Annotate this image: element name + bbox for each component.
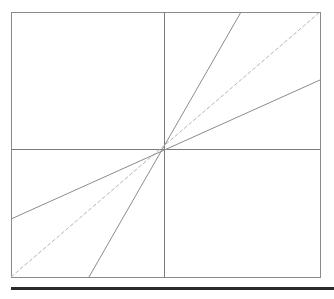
line-diagram	[0, 0, 334, 299]
bottom-rule	[11, 287, 334, 290]
diagram-frame	[12, 13, 321, 278]
